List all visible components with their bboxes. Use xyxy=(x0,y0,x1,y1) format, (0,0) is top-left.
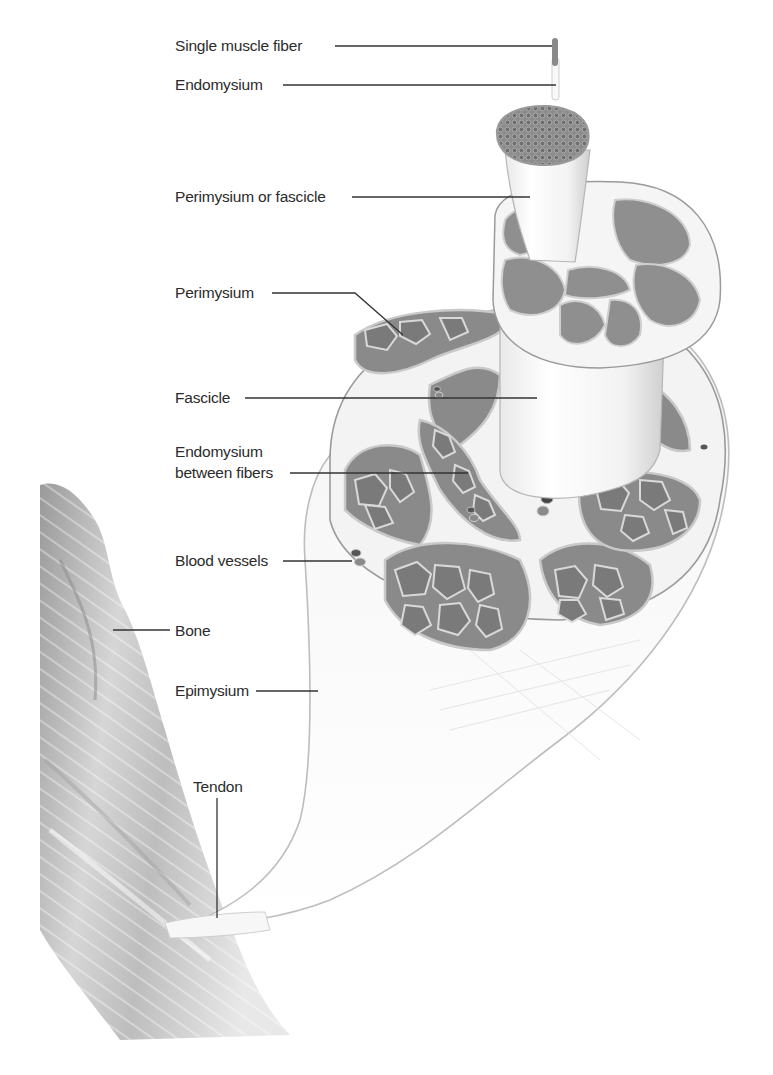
label-blood-vessels: Blood vessels xyxy=(175,552,268,570)
label-endomysium-between-fibers-line1: Endomysium xyxy=(175,443,263,461)
label-epimysium: Epimysium xyxy=(175,682,249,700)
label-bone: Bone xyxy=(175,622,210,640)
muscle-structure-illustration xyxy=(0,0,773,1075)
label-single-muscle-fiber: Single muscle fiber xyxy=(175,37,302,55)
label-tendon: Tendon xyxy=(193,778,243,796)
label-endomysium-between-fibers-line2: between fibers xyxy=(175,464,273,482)
label-perimysium-or-fascicle: Perimysium or fascicle xyxy=(175,188,326,206)
label-endomysium: Endomysium xyxy=(175,76,263,94)
label-fascicle: Fascicle xyxy=(175,389,230,407)
label-perimysium: Perimysium xyxy=(175,284,254,302)
single-fiber xyxy=(552,38,559,100)
